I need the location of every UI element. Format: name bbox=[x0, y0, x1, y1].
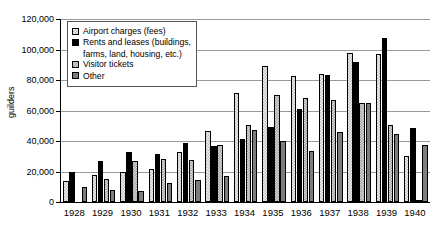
legend-label-continuation: farms, land, housing, etc.) bbox=[83, 49, 191, 59]
legend-label: Airport charges (fees) bbox=[83, 26, 166, 36]
bar-group bbox=[231, 19, 259, 202]
bar[interactable] bbox=[268, 127, 273, 202]
x-axis-tick-label: 1936 bbox=[287, 207, 315, 218]
bar[interactable] bbox=[195, 180, 200, 202]
legend-label: Other bbox=[83, 71, 105, 81]
y-axis-tick-label: 40,000 bbox=[26, 137, 54, 146]
legend-swatch-icon bbox=[72, 28, 79, 35]
bar[interactable] bbox=[347, 53, 352, 202]
bar[interactable] bbox=[211, 146, 216, 202]
bar[interactable] bbox=[376, 54, 381, 202]
legend-item[interactable]: Other bbox=[72, 71, 191, 81]
bar-group bbox=[345, 19, 373, 202]
legend-swatch-icon bbox=[72, 72, 79, 79]
bar[interactable] bbox=[149, 169, 154, 202]
x-axis-tick-label: 1931 bbox=[145, 207, 173, 218]
bar[interactable] bbox=[189, 160, 194, 202]
y-axis-tick-label: 20,000 bbox=[26, 167, 54, 176]
y-axis-tick-label: 0 bbox=[49, 198, 54, 207]
bar[interactable] bbox=[388, 125, 393, 202]
bar[interactable] bbox=[110, 190, 115, 202]
bar[interactable] bbox=[291, 76, 296, 202]
bar[interactable] bbox=[353, 62, 358, 202]
bar[interactable] bbox=[337, 132, 342, 202]
bar-group bbox=[317, 19, 345, 202]
bar-group bbox=[203, 19, 231, 202]
legend-label: Rents and leases (buildings, bbox=[83, 37, 191, 47]
y-axis-tick-label: 60,000 bbox=[26, 106, 54, 115]
x-axis-tick-label: 1937 bbox=[316, 207, 344, 218]
bar-group bbox=[288, 19, 316, 202]
legend: Airport charges (fees)Rents and leases (… bbox=[67, 21, 197, 87]
bar-group bbox=[260, 19, 288, 202]
bar[interactable] bbox=[246, 125, 251, 202]
bar[interactable] bbox=[303, 98, 308, 202]
legend-item[interactable]: Airport charges (fees) bbox=[72, 26, 191, 36]
bar[interactable] bbox=[217, 145, 222, 202]
x-axis-tick-label: 1932 bbox=[174, 207, 202, 218]
x-axis-tick-label: 1934 bbox=[230, 207, 258, 218]
legend-swatch-icon bbox=[72, 61, 79, 68]
bar[interactable] bbox=[359, 103, 364, 202]
x-axis-tick-label: 1929 bbox=[88, 207, 116, 218]
x-axis-tick-label: 1930 bbox=[117, 207, 145, 218]
bar[interactable] bbox=[331, 100, 336, 202]
x-axis-tick-label: 1940 bbox=[401, 207, 429, 218]
bar[interactable] bbox=[319, 74, 324, 202]
bar[interactable] bbox=[132, 161, 137, 202]
x-axis-tick-label: 1933 bbox=[202, 207, 230, 218]
bar[interactable] bbox=[280, 141, 285, 202]
bar[interactable] bbox=[262, 66, 267, 202]
legend-item[interactable]: Visitor tickets bbox=[72, 59, 191, 69]
bar[interactable] bbox=[410, 128, 415, 202]
legend-swatch-icon bbox=[72, 39, 79, 46]
bar[interactable] bbox=[416, 200, 421, 202]
bar[interactable] bbox=[104, 179, 109, 202]
bar[interactable] bbox=[69, 172, 74, 203]
bar[interactable] bbox=[138, 191, 143, 202]
bar[interactable] bbox=[92, 175, 97, 202]
bar[interactable] bbox=[183, 143, 188, 202]
bar[interactable] bbox=[167, 183, 172, 202]
x-axis-tick-label: 1939 bbox=[372, 207, 400, 218]
bar-group bbox=[373, 19, 401, 202]
bar[interactable] bbox=[297, 109, 302, 202]
bar[interactable] bbox=[177, 152, 182, 202]
x-axis-tick-label: 1935 bbox=[259, 207, 287, 218]
bar[interactable] bbox=[224, 176, 229, 202]
bar[interactable] bbox=[126, 152, 131, 202]
legend-item[interactable]: Rents and leases (buildings, bbox=[72, 37, 191, 47]
x-axis-tick-label: 1938 bbox=[344, 207, 372, 218]
bar[interactable] bbox=[98, 161, 103, 202]
bar[interactable] bbox=[309, 151, 314, 202]
bar[interactable] bbox=[422, 145, 427, 202]
bar-group bbox=[402, 19, 430, 202]
bar[interactable] bbox=[161, 159, 166, 202]
bar[interactable] bbox=[404, 156, 409, 202]
bar[interactable] bbox=[82, 187, 87, 202]
x-axis-labels: 1928192919301931193219331934193519361937… bbox=[60, 207, 429, 218]
bar[interactable] bbox=[325, 75, 330, 202]
bar-chart: guilders 120,000100,00080,00060,00040,00… bbox=[0, 0, 444, 239]
bar[interactable] bbox=[63, 181, 68, 202]
y-axis-tick bbox=[56, 202, 61, 203]
bar[interactable] bbox=[205, 131, 210, 202]
x-axis-tick-label: 1928 bbox=[60, 207, 88, 218]
bar[interactable] bbox=[394, 134, 399, 202]
bar[interactable] bbox=[274, 95, 279, 202]
bar[interactable] bbox=[382, 38, 387, 202]
y-axis-tick-label: 80,000 bbox=[26, 76, 54, 85]
bar[interactable] bbox=[234, 93, 239, 202]
y-axis-tick-label: 120,000 bbox=[21, 15, 54, 24]
bar[interactable] bbox=[252, 130, 257, 202]
bar[interactable] bbox=[240, 139, 245, 202]
bar[interactable] bbox=[366, 103, 371, 202]
y-axis-tick-label: 100,000 bbox=[21, 45, 54, 54]
bar[interactable] bbox=[120, 172, 125, 202]
bar[interactable] bbox=[155, 154, 160, 202]
legend-label: Visitor tickets bbox=[83, 59, 133, 69]
y-axis-title: guilders bbox=[6, 86, 16, 118]
